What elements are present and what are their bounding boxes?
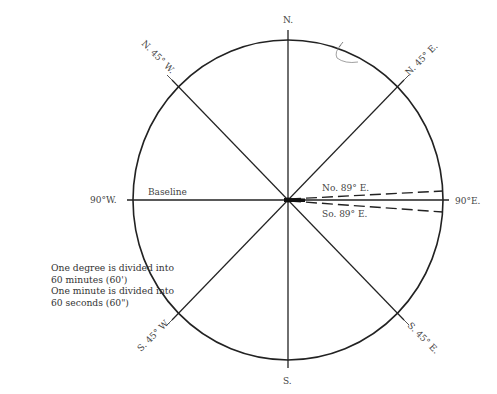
label-ne: N. 45° E. xyxy=(403,41,439,77)
label-sw: S. 45° W. xyxy=(135,317,171,353)
label-baseline: Baseline xyxy=(148,187,187,197)
note-line-2: 60 minutes (60') xyxy=(51,274,174,286)
center-point xyxy=(286,198,291,203)
label-so89e: So. 89° E. xyxy=(322,209,368,219)
label-north: N. xyxy=(283,15,293,25)
sketch-tick xyxy=(339,42,343,47)
nw-tick xyxy=(167,75,172,80)
label-east: 90°E. xyxy=(455,196,481,206)
label-no89e: No. 89° E. xyxy=(322,183,369,193)
note-line-4: 60 seconds (60") xyxy=(51,297,174,309)
label-west: 90°W. xyxy=(90,195,117,205)
label-south: S. xyxy=(283,376,292,386)
note-line-1: One degree is divided into xyxy=(51,262,174,274)
label-nw: N. 45° W. xyxy=(140,38,177,75)
compass-diagram: N. S. 90°W. 90°E. Baseline No. 89° E. So… xyxy=(0,0,497,394)
label-se: S. 45° E. xyxy=(406,320,441,355)
note-line-3: One minute is divided into xyxy=(51,285,174,297)
degree-note: One degree is divided into 60 minutes (6… xyxy=(51,262,174,308)
pencil-sketch-mark xyxy=(336,45,358,63)
